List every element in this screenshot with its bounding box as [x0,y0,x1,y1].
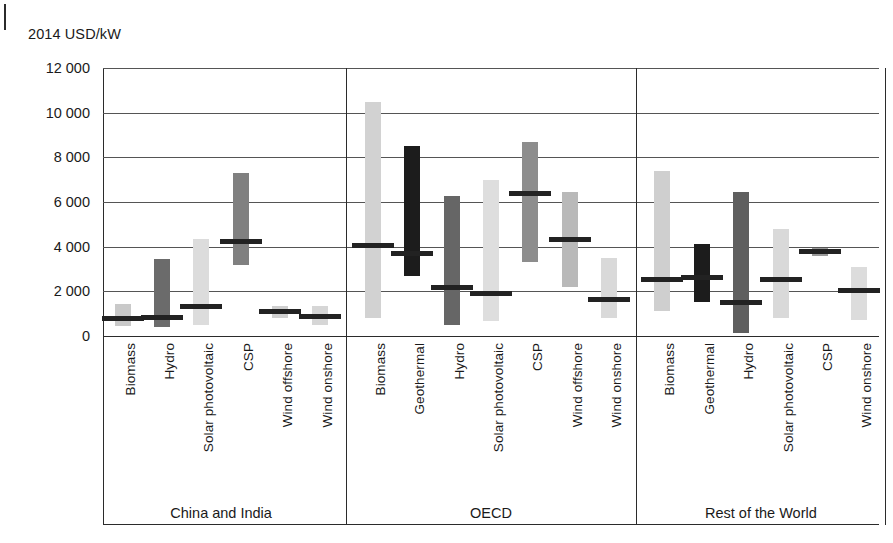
bottom-border-rule [103,524,879,525]
median-marker [102,316,144,321]
group-divider [636,68,637,336]
median-marker [681,275,723,280]
median-marker [549,237,591,242]
median-marker [220,239,262,244]
category-label-text: Geothermal [412,343,427,415]
category-label-text: Solar photovoltaic [491,343,506,452]
category-label-text: Wind onshore [609,343,624,428]
category-label-text: Biomass [373,343,388,395]
median-marker [259,309,301,314]
median-marker [720,300,762,305]
gridline-12000 [103,68,879,69]
median-marker [299,314,341,319]
y-tick-label: 12 000 [46,60,90,76]
y-tick-label: 0 [82,328,90,344]
category-axis-labels: BiomassHydroSolar photovoltaicCSPWind of… [103,339,879,499]
range-bar [522,142,538,263]
category-label-text: Wind offshore [570,343,585,427]
range-bar [365,102,381,319]
median-marker [799,249,841,254]
gridline-8000 [103,157,879,158]
median-marker [352,243,394,248]
y-tick-label: 8 000 [54,149,90,165]
range-bar [483,180,499,322]
category-label-text: Biomass [123,343,138,395]
group-label: China and India [170,505,272,521]
category-label-text: Wind offshore [280,343,295,427]
range-bar [193,239,209,325]
median-marker [391,251,433,256]
corner-rule-mark [4,4,6,30]
category-label-text: Geothermal [702,343,717,415]
range-bar [654,171,670,312]
median-marker [180,304,222,309]
range-bar [233,173,249,265]
label-band-left-rule [103,336,104,525]
group-divider [885,68,886,336]
gridline-0 [103,336,879,337]
range-bar [404,146,420,276]
median-marker [141,315,183,320]
group-divider [346,68,347,336]
category-label-text: Hydro [741,343,756,380]
median-marker [588,297,630,302]
plot-area [103,68,879,336]
range-bar [773,229,789,318]
range-bar [601,258,617,318]
y-axis-tick-labels: 02 0004 0006 0008 00010 00012 000 [0,52,96,352]
category-label-text: Hydro [162,343,177,380]
median-marker [470,291,512,296]
category-label-text: CSP [820,343,835,371]
range-bar [851,267,867,321]
median-marker [509,191,551,196]
y-tick-label: 10 000 [46,105,90,121]
gridline-10000 [103,113,879,114]
y-tick-label: 6 000 [54,194,90,210]
category-label-text: Hydro [452,343,467,380]
group-label: Rest of the World [705,505,817,521]
category-label-text: Wind onshore [859,343,874,428]
y-axis-unit-label: 2014 USD/kW [28,26,121,42]
median-marker [838,288,880,293]
category-label-text: Solar photovoltaic [781,343,796,452]
chart-page: 2014 USD/kW 02 0004 0006 0008 00010 0001… [0,0,893,543]
range-bar [694,244,710,302]
group-divider-lower [636,336,637,525]
category-label-text: Wind onshore [320,343,335,428]
median-marker [760,277,802,282]
median-marker [641,277,683,282]
category-label-text: Biomass [662,343,677,395]
range-bar [444,196,460,324]
y-tick-label: 2 000 [54,283,90,299]
y-tick-label: 4 000 [54,239,90,255]
category-label-text: CSP [530,343,545,371]
category-label-text: CSP [241,343,256,371]
range-bar [733,192,749,333]
category-label-text: Solar photovoltaic [201,343,216,452]
group-divider-lower [346,336,347,525]
median-marker [431,285,473,290]
group-label: OECD [470,505,512,521]
group-divider-lower [885,336,886,525]
